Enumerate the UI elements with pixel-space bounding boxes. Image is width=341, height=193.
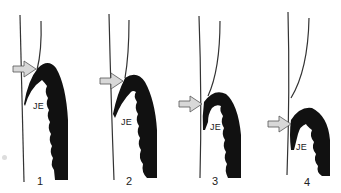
je-label: JE [121,117,132,127]
gingiva-outer-line [125,20,129,78]
panel-3: JE 3 [170,0,255,193]
arrow-right-icon [100,73,123,89]
epithelium-shape [113,75,157,178]
panel-2: JE 2 [85,0,170,193]
panel-4: JE 4 [250,0,341,193]
tooth-surface-line [20,15,24,182]
arrow-right-icon [13,61,36,77]
je-label: JE [296,142,307,152]
panel-number: 1 [37,175,43,187]
panel-3-drawing [170,0,255,193]
panel-1-drawing [0,0,85,193]
gingiva-outer-line [291,18,309,98]
panel-number: 4 [304,176,310,188]
gingiva-outer-line [208,21,220,96]
tooth-surface-line [287,12,289,175]
arrow-right-icon [179,96,202,112]
panel-4-drawing [250,0,341,193]
je-label: JE [210,122,221,132]
tooth-surface-line [109,14,114,180]
panel-2-drawing [85,0,170,193]
panel-number: 3 [212,175,218,187]
junctional-epithelium-diagram: JE 1 JE 2 JE 3 JE 4 [0,0,341,193]
gingiva-outer-line [37,21,41,70]
arrow-right-icon [268,116,291,132]
panel-number: 2 [126,175,132,187]
epithelium-shape [203,92,241,178]
tooth-surface-line [199,16,201,178]
panel-1: JE 1 [0,0,85,193]
epithelium-shape [24,63,68,180]
je-label: JE [33,101,44,111]
